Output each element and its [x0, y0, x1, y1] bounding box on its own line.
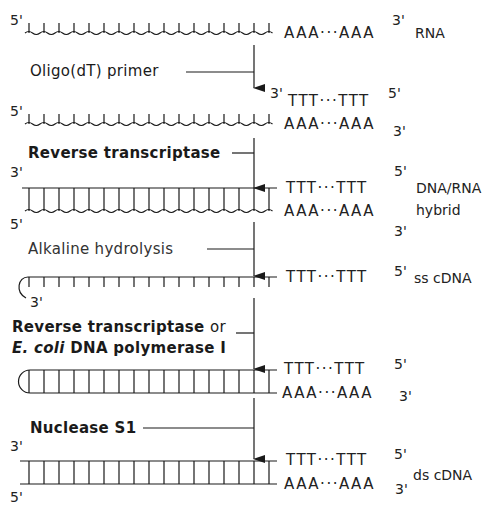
rna2-3prime-label: 3': [393, 124, 406, 138]
step-rt2-label: Reverse transcriptase: [12, 318, 205, 336]
primer-5prime-label: 5': [388, 86, 401, 100]
second-strand-3prime-label: 3': [399, 389, 412, 403]
arrow-alkaline-hydrolysis: [207, 222, 254, 276]
hairpin-duplex: [19, 370, 278, 393]
second-strand-aaa-seq: AAA···AAA: [282, 386, 373, 401]
step-oligo-dt-primer: Oligo(dT) primer: [30, 64, 159, 79]
dscdna-3prime-bottom-label: 3': [395, 482, 408, 496]
step-ecoli-dna-pol-i: E. coli DNA polymerase I: [12, 341, 226, 356]
hybrid-5prime-top-label: 5': [394, 164, 407, 178]
dscdna-aaa-seq: AAA···AAA: [284, 477, 375, 492]
hybrid-3prime-bottom-label: 3': [394, 224, 407, 238]
step-reverse-transcriptase: Reverse transcriptase: [28, 146, 221, 161]
ss-cdna-strand: [19, 277, 277, 298]
arrow-reverse-transcriptase: [232, 138, 254, 188]
step-dna-pol-i-label: DNA polymerase I: [70, 339, 226, 357]
rna-name-label: RNA: [415, 26, 445, 40]
step-nuclease-s1: Nuclease S1: [30, 421, 136, 436]
step-reverse-transcriptase-2: Reverse transcriptase or: [12, 320, 226, 335]
hybrid-duplex: [22, 188, 277, 213]
hybrid-5prime-bottom-label: 5': [10, 217, 23, 231]
hybrid-3prime-top-label: 3': [10, 165, 23, 179]
rna2-polya-tail: AAA···AAA: [284, 117, 375, 132]
second-strand-ttt-seq: TTT···TTT: [284, 362, 366, 377]
rna-polya-tail: AAA···AAA: [284, 26, 375, 41]
hybrid-ttt-seq: TTT···TTT: [286, 181, 368, 196]
arrow-second-strand: [236, 298, 254, 369]
hybrid-name-line1: DNA/RNA: [416, 181, 481, 195]
step-ecoli-italic: E. coli: [12, 339, 65, 357]
arrow-oligo-dt: [186, 45, 254, 88]
step-or-label: or: [210, 318, 226, 336]
rna-strand-with-primer: [25, 114, 273, 126]
sscdna-5prime-label: 5': [394, 264, 407, 278]
hybrid-aaa-seq: AAA···AAA: [284, 204, 375, 219]
ds-cdna-duplex: [20, 461, 277, 484]
rna-3prime-label: 3': [392, 13, 405, 27]
dscdna-name-label: ds cDNA: [413, 468, 472, 482]
hybrid-name-line2: hybrid: [416, 203, 461, 217]
rna2-5prime-label: 5': [10, 104, 23, 118]
sscdna-ttt-seq: TTT···TTT: [286, 270, 368, 285]
arrow-nuclease-s1: [143, 398, 254, 459]
primer-3prime-label: 3': [270, 86, 283, 100]
rna-5prime-label: 5': [10, 13, 23, 27]
dscdna-3prime-top-label: 3': [10, 439, 23, 453]
dscdna-5prime-top-label: 5': [394, 447, 407, 461]
second-strand-5prime-label: 5': [394, 357, 407, 371]
primer-oligo-dt-seq: TTT···TTT: [288, 94, 370, 109]
sscdna-name-label: ss cDNA: [414, 271, 472, 285]
dscdna-ttt-seq: TTT···TTT: [286, 453, 368, 468]
sscdna-3prime-label: 3': [30, 295, 43, 309]
dscdna-5prime-bottom-label: 5': [10, 490, 23, 504]
step-alkaline-hydrolysis: Alkaline hydrolysis: [28, 242, 173, 257]
rna-strand: [25, 23, 273, 35]
